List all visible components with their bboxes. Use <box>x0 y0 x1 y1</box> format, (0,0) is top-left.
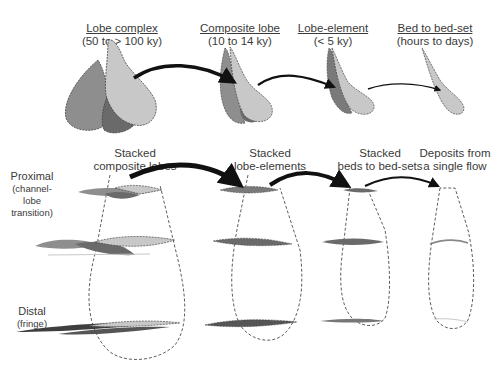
hierarchy-diagram <box>0 0 492 382</box>
bed-shape <box>422 48 464 114</box>
arrow-icon <box>365 177 438 186</box>
arrow-icon <box>130 165 240 185</box>
single-flow-outline <box>429 188 474 329</box>
lobe-element-deposits <box>205 187 297 327</box>
arrow-icon <box>134 66 234 82</box>
lobe-element-shape <box>327 48 374 114</box>
arrow-icon <box>368 84 440 90</box>
composite-lobe-deposits <box>16 185 180 334</box>
single-flow-deposits <box>430 240 468 322</box>
arrow-icon <box>270 173 348 186</box>
lobe-complex-shape <box>65 40 156 133</box>
bed-set-outline <box>341 188 390 326</box>
lobe-element-outline <box>232 175 302 340</box>
composite-lobe-shape <box>220 47 272 123</box>
arrow-icon <box>258 76 334 87</box>
bed-set-deposits <box>320 188 384 322</box>
